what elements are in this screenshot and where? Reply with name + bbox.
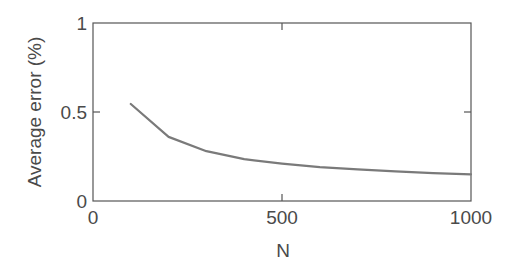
y-tick-label: 0.5 [61,102,87,123]
y-tick-label: 0 [76,191,87,212]
plot-frame [93,23,471,201]
x-tick-label: 1000 [450,207,492,228]
tick-labels: 0500100000.51 [61,13,493,228]
x-axis-label: N [276,240,290,261]
y-axis-label: Average error (%) [24,37,45,188]
axis-ticks [93,23,471,201]
y-tick-label: 1 [76,13,87,34]
x-tick-label: 0 [88,207,99,228]
line-chart: 0500100000.51 N Average error (%) [0,0,520,265]
x-tick-label: 500 [266,207,298,228]
data-series-line [131,104,471,174]
